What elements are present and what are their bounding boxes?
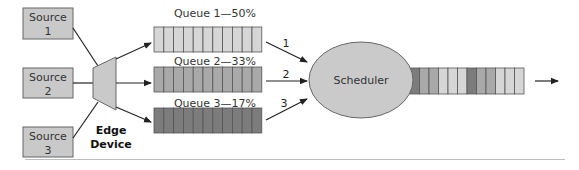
output-queue-cell [420, 68, 430, 94]
edge-to-queue-1-arrow [116, 43, 151, 59]
output-queue-cell [505, 68, 515, 94]
output-queue-bar [410, 68, 524, 94]
output-queue-cell [496, 68, 506, 94]
arrow-3-label: 3 [281, 97, 288, 110]
queue-2-bar [154, 67, 262, 92]
queue-1-cell [232, 27, 242, 52]
source-1: Source 1 [23, 8, 73, 39]
queue-2-cell [203, 67, 213, 92]
queue-1-cell [164, 27, 174, 52]
output-queue-cell [448, 68, 458, 94]
source-2-number: 2 [45, 85, 52, 98]
source-1-number: 1 [45, 25, 52, 38]
arrow-1-label: 1 [283, 37, 290, 50]
source-2: Source 2 [23, 68, 73, 98]
output-queue-cell [467, 68, 477, 94]
edge-device-label-line1: Edge [96, 124, 127, 137]
queue-2-cell [174, 67, 184, 92]
output-queue-cell [458, 68, 468, 94]
source-3-number: 3 [45, 144, 52, 157]
queue-3-cell [174, 108, 184, 133]
queue-2-cell [183, 67, 193, 92]
queue-3-cell [252, 108, 262, 133]
output-queue-cell [439, 68, 449, 94]
queue-1-cell [203, 27, 213, 52]
weighted-fair-queuing-diagram: Source 1 Source 2 Source 3 Edge Device Q… [0, 0, 579, 170]
queue-1-label: Queue 1—50% [174, 7, 256, 20]
queue-1-cell [174, 27, 184, 52]
queue-2-label: Queue 2—33% [174, 55, 256, 68]
edge-device-shape [93, 57, 116, 110]
queue-3-cell [213, 108, 223, 133]
queue-2-cell [213, 67, 223, 92]
queue-3-cell [232, 108, 242, 133]
queue-2-cell [164, 67, 174, 92]
output-queue-cell [515, 68, 525, 94]
queue-2-cell [154, 67, 164, 92]
queue-3-bar [154, 108, 262, 133]
arrow-2-label: 2 [283, 68, 290, 81]
output-queue-cell [429, 68, 439, 94]
source-1-link [73, 28, 98, 66]
output-queue-cell [486, 68, 496, 94]
queue-1-cell [213, 27, 223, 52]
source-2-label: Source [29, 71, 67, 84]
queue-3-cell [203, 108, 213, 133]
queue-2-cell [193, 67, 203, 92]
queue-2-cell [223, 67, 233, 92]
queue-2-cell [232, 67, 242, 92]
output-queue-cell [477, 68, 487, 94]
edge-device-label-line2: Device [90, 138, 132, 151]
queue-1-cell [183, 27, 193, 52]
source-3-link [73, 102, 98, 138]
queue-1-cell [242, 27, 252, 52]
queue-1-cell [252, 27, 262, 52]
edge-to-queue-3-arrow [116, 107, 151, 122]
source-1-label: Source [29, 11, 67, 24]
scheduler-label: Scheduler [333, 74, 389, 87]
queue-3-cell [164, 108, 174, 133]
queue-1-cell [154, 27, 164, 52]
queue-3-cell [193, 108, 203, 133]
queue-2-cell [252, 67, 262, 92]
queue-3-cell [183, 108, 193, 133]
queue-3-cell [242, 108, 252, 133]
queue-1-cell [223, 27, 233, 52]
queue-3-cell [223, 108, 233, 133]
queue-3-cell [154, 108, 164, 133]
queue-1-cell [193, 27, 203, 52]
queue-2-cell [242, 67, 252, 92]
source-3: Source 3 [23, 127, 73, 157]
queue-1-bar [154, 27, 262, 52]
source-3-label: Source [29, 130, 67, 143]
